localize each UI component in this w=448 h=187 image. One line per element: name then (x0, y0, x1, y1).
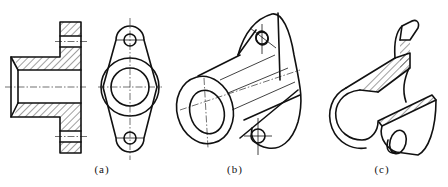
panel-b-isometric-view (169, 13, 301, 155)
panel-c-cutaway-view (330, 20, 436, 155)
panel-b-label: (b) (227, 163, 243, 175)
panel-a-front-view (98, 18, 162, 160)
panel-a-section-view (5, 22, 87, 153)
panel-a-label: (a) (94, 163, 109, 175)
panel-c-label: (c) (374, 163, 389, 175)
engineering-drawing (0, 0, 448, 187)
